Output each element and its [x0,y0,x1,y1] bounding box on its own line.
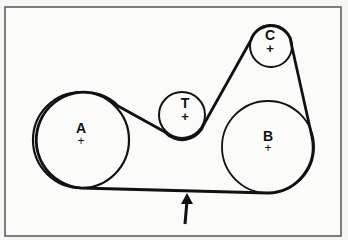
pulley-a-center-mark: + [77,134,84,148]
diagram-canvas: A + T + C + B + [0,0,348,240]
pulley-t-center-mark: + [181,109,189,124]
pulley-c-center-mark: + [266,41,274,56]
belt-diagram: A + T + C + B + [0,0,348,240]
pulley-b-center-mark: + [264,141,271,155]
